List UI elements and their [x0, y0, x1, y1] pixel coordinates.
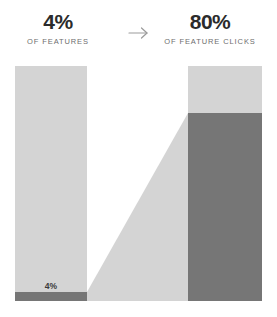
- bar-left-highlight: [15, 292, 87, 301]
- connector-wedge: [87, 113, 188, 301]
- bar-right-highlight: [188, 113, 262, 301]
- bar-right-remainder: [188, 66, 262, 113]
- bar-left-remainder: [15, 66, 87, 292]
- bar-chart: 4%: [0, 0, 277, 317]
- infographic-canvas: 4% OF FEATURES 80% OF FEATURE CLICKS 4%: [0, 0, 277, 317]
- bar-left-inline-label: 4%: [45, 281, 58, 291]
